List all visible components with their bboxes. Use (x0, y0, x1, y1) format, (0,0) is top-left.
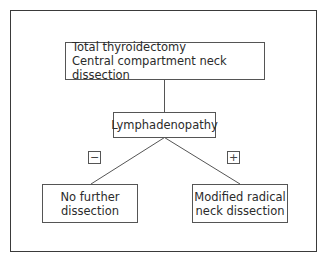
node-decision: Lymphadenopathy (113, 112, 216, 138)
node-root: Total thyroidectomy Central compartment … (65, 42, 265, 80)
node-positive-line1: Modified radical (194, 190, 286, 204)
node-negative-line1: No further (61, 190, 120, 204)
node-positive-line2: neck dissection (196, 204, 285, 218)
node-root-line2: Central compartment neck dissection (72, 54, 264, 82)
node-negative: No further dissection (42, 184, 138, 223)
edge-decision-to-negative (91, 138, 165, 185)
plus-sign-icon: + (227, 151, 240, 164)
node-positive: Modified radical neck dissection (192, 184, 288, 223)
node-negative-line2: dissection (61, 204, 119, 218)
minus-sign-icon: − (88, 151, 101, 164)
node-decision-label: Lymphadenopathy (111, 118, 218, 132)
node-root-line1: Total thyroidectomy (72, 40, 186, 54)
